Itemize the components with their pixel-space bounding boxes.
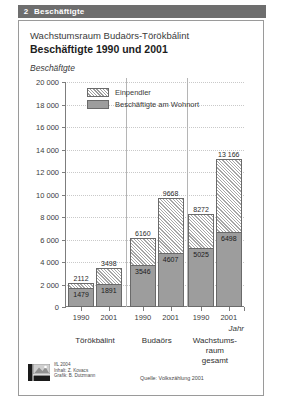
bar-stack: 46079668 bbox=[158, 198, 184, 307]
bar-stack: 14792112 bbox=[68, 283, 94, 307]
chart-title: Wachstumsraum Budaörs-Törökbálint bbox=[30, 29, 256, 42]
section-number: 2 bbox=[18, 7, 34, 16]
bar-segment-einpendler bbox=[131, 239, 155, 265]
credits-block: IfL 2004 Inhalt: Z. Kovacs Grafik: B. Du… bbox=[54, 362, 95, 379]
bar-label-total: 13 166 bbox=[218, 151, 239, 158]
x-axis-tick-label: 1990 bbox=[193, 313, 210, 322]
y-axis-tick-label: 14 000 bbox=[36, 145, 59, 154]
y-axis-tick bbox=[62, 150, 66, 151]
section-header-bar: 2 Beschäftigte bbox=[18, 5, 266, 18]
gridline bbox=[65, 82, 244, 83]
y-axis-tick bbox=[62, 240, 66, 241]
source-note: Quelle: Volkszählung 2001 bbox=[140, 375, 204, 381]
y-axis-tick bbox=[62, 195, 66, 196]
y-axis-tick-label: 2 000 bbox=[40, 280, 59, 289]
x-axis-tick-label: 2001 bbox=[162, 313, 179, 322]
legend-label-wohnort: Beschäftigte am Wohnort bbox=[115, 100, 199, 109]
bar-segment-wohnort: 3546 bbox=[131, 265, 155, 306]
y-axis-tick bbox=[62, 307, 66, 308]
bar-label-wohnort: 6498 bbox=[221, 235, 237, 242]
gridline bbox=[65, 127, 244, 128]
bar-label-total: 8272 bbox=[193, 206, 209, 213]
x-axis-tick bbox=[81, 307, 82, 311]
y-axis-tick-label: 12 000 bbox=[36, 168, 59, 177]
bar-segment-wohnort: 4607 bbox=[159, 253, 183, 306]
x-axis-tick bbox=[109, 307, 110, 311]
legend-item-wohnort: Beschäftigte am Wohnort bbox=[87, 100, 199, 109]
bar-label-wohnort: 1479 bbox=[73, 291, 89, 298]
y-axis-tick bbox=[62, 262, 66, 263]
bar-stack: 35466160 bbox=[130, 238, 156, 307]
y-axis-tick-label: 0 bbox=[55, 303, 59, 312]
bar-segment-einpendler bbox=[159, 199, 183, 253]
x-axis-tick bbox=[201, 307, 202, 311]
y-axis-tick-label: 6 000 bbox=[40, 235, 59, 244]
bar-segment-wohnort: 5025 bbox=[189, 248, 213, 306]
group-divider bbox=[126, 78, 127, 307]
y-axis-tick bbox=[62, 172, 66, 173]
bar-label-total: 2112 bbox=[74, 275, 89, 282]
legend-item-einpendler: Einpendler bbox=[87, 88, 199, 97]
x-axis-tick bbox=[171, 307, 172, 311]
y-axis-tick-label: 16 000 bbox=[36, 123, 59, 132]
bar-stack: 50258272 bbox=[188, 214, 214, 307]
bar-segment-einpendler bbox=[189, 215, 213, 249]
chart-subtitle: Beschäftigte 1990 und 2001 bbox=[30, 42, 256, 56]
bar-segment-wohnort: 6498 bbox=[217, 232, 241, 306]
y-axis-tick-label: 4 000 bbox=[40, 258, 59, 267]
x-axis-tick bbox=[143, 307, 144, 311]
y-axis-tick bbox=[62, 105, 66, 106]
credit-grafik: Grafik: B. Dutzmann bbox=[54, 373, 95, 379]
bar-segment-wohnort: 1891 bbox=[97, 284, 121, 306]
y-axis-tick-label: 8 000 bbox=[40, 213, 59, 222]
x-axis-tick-label: 1990 bbox=[135, 313, 152, 322]
ifl-logo-icon bbox=[28, 364, 50, 381]
bar-label-total: 3498 bbox=[101, 260, 117, 267]
chart-legend: Einpendler Beschäftigte am Wohnort bbox=[87, 88, 199, 109]
bar-label-total: 6160 bbox=[135, 230, 151, 237]
x-axis-tick bbox=[229, 307, 230, 311]
bar-stack: 649813 166 bbox=[216, 159, 242, 307]
x-axis-tick-label: 2001 bbox=[220, 313, 237, 322]
y-axis-tick bbox=[62, 82, 66, 83]
y-axis-tick-label: 10 000 bbox=[36, 190, 59, 199]
bar-segment-einpendler bbox=[217, 160, 241, 232]
bar-label-total: 9668 bbox=[163, 190, 179, 197]
bar-stack: 18913498 bbox=[96, 268, 122, 307]
x-axis-tick-label: 1990 bbox=[73, 313, 90, 322]
x-axis-label: Jahr bbox=[228, 324, 244, 333]
figure-footer: IfL 2004 Inhalt: Z. Kovacs Grafik: B. Du… bbox=[28, 362, 256, 388]
section-title: Beschäftigte bbox=[34, 7, 84, 16]
bar-label-wohnort: 3546 bbox=[135, 268, 151, 275]
bar-label-wohnort: 1891 bbox=[101, 287, 117, 294]
bar-label-wohnort: 4607 bbox=[163, 256, 179, 263]
figure-page: 2 Beschäftigte Wachstumsraum Budaörs-Tör… bbox=[0, 0, 284, 407]
group-divider bbox=[187, 78, 188, 307]
x-axis-group-label: Törökbálint bbox=[75, 336, 115, 346]
x-axis-tick bbox=[244, 307, 245, 311]
legend-label-einpendler: Einpendler bbox=[115, 88, 151, 97]
x-axis-tick-label: 2001 bbox=[101, 313, 118, 322]
bar-label-wohnort: 5025 bbox=[193, 251, 209, 258]
y-axis-tick-label: 20 000 bbox=[36, 78, 59, 87]
bar-segment-einpendler bbox=[97, 269, 121, 284]
y-axis-tick-label: 18 000 bbox=[36, 100, 59, 109]
y-axis-tick bbox=[62, 285, 66, 286]
chart-figure: Wachstumsraum Budaörs-Törökbálint Beschä… bbox=[18, 20, 264, 396]
legend-swatch-wohnort bbox=[87, 100, 109, 109]
title-block: Wachstumsraum Budaörs-Törökbálint Beschä… bbox=[30, 29, 256, 56]
bar-segment-wohnort: 1479 bbox=[69, 288, 93, 306]
plot-area: 02 0004 0006 0008 00010 00012 00014 0001… bbox=[65, 82, 244, 307]
y-axis-tick bbox=[62, 217, 66, 218]
legend-swatch-einpendler bbox=[87, 88, 109, 97]
y-axis-tick bbox=[62, 127, 66, 128]
x-axis-group-label: Budaörs bbox=[142, 336, 172, 346]
y-axis-label: Beschäftgte bbox=[30, 63, 75, 73]
